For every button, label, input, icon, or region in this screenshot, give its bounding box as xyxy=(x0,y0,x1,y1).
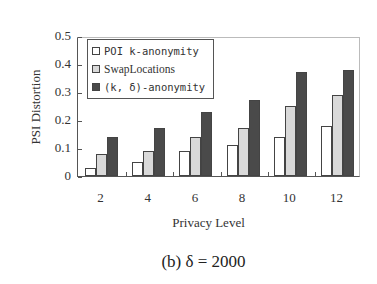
bar-poi-k-anonymity-4 xyxy=(132,162,143,176)
y-axis-label: PSI Distortion xyxy=(28,70,44,145)
x-axis-label: Privacy Level xyxy=(0,215,377,231)
bar-k-anonymity-6 xyxy=(201,112,212,176)
y-tick-mark xyxy=(78,177,82,178)
x-tick-mark xyxy=(221,172,222,176)
bar-poi-k-anonymity-6 xyxy=(179,151,190,176)
bar-poi-k-anonymity-2 xyxy=(85,168,96,176)
legend-label: SwapLocations xyxy=(104,63,175,75)
bar-swaplocations-10 xyxy=(285,106,296,176)
legend-item-swaplocations: SwapLocations xyxy=(92,63,175,75)
bar-swaplocations-6 xyxy=(190,137,201,176)
y-tick-mark xyxy=(78,121,82,122)
figure-caption: (b) δ = 2000 xyxy=(0,252,377,272)
x-tick-mark xyxy=(173,172,174,176)
y-tick-mark xyxy=(78,65,82,66)
bar-swaplocations-12 xyxy=(332,95,343,176)
y-tick-label: 0.5 xyxy=(41,28,71,44)
y-tick-label: 0.2 xyxy=(41,112,71,128)
y-tick-label: 0.4 xyxy=(41,56,71,72)
legend-item-poi-k-anonymity: POI k-anonymity xyxy=(92,45,199,57)
y-tick-label: 0.1 xyxy=(41,140,71,156)
y-tick-label: 0 xyxy=(41,168,71,184)
x-tick-label: 10 xyxy=(274,190,304,206)
bar-k-anonymity-4 xyxy=(154,128,165,176)
bar-swaplocations-2 xyxy=(96,154,107,176)
legend-label: (k, δ)-anonymity xyxy=(104,81,205,93)
bar-k-anonymity-10 xyxy=(296,72,307,176)
bar-swaplocations-8 xyxy=(238,128,249,176)
y-tick-mark xyxy=(78,149,82,150)
x-tick-mark xyxy=(126,172,127,176)
legend-label: POI k-anonymity xyxy=(104,45,199,57)
plot-area: POI k-anonymity SwapLocations (k, δ)-ano… xyxy=(77,37,360,177)
legend-swatch-white xyxy=(92,47,100,55)
legend-swatch-light-gray xyxy=(92,65,100,73)
x-tick-label: 12 xyxy=(322,190,352,206)
bar-k-anonymity-2 xyxy=(107,137,118,176)
x-tick-mark xyxy=(315,172,316,176)
legend-item-k-delta-anonymity: (k, δ)-anonymity xyxy=(92,81,205,93)
x-tick-label: 6 xyxy=(180,190,210,206)
y-tick-mark xyxy=(78,37,82,38)
bar-poi-k-anonymity-12 xyxy=(321,126,332,176)
legend-swatch-dark-gray xyxy=(92,83,100,91)
x-tick-label: 4 xyxy=(133,190,163,206)
bar-k-anonymity-12 xyxy=(343,70,354,176)
bar-swaplocations-4 xyxy=(143,151,154,176)
x-tick-mark xyxy=(268,172,269,176)
x-tick-label: 2 xyxy=(86,190,116,206)
y-tick-mark xyxy=(78,93,82,94)
y-tick-label: 0.3 xyxy=(41,84,71,100)
bar-poi-k-anonymity-8 xyxy=(227,145,238,176)
bar-k-anonymity-8 xyxy=(249,100,260,176)
x-tick-label: 8 xyxy=(227,190,257,206)
legend: POI k-anonymity SwapLocations (k, δ)-ano… xyxy=(87,39,214,99)
bar-poi-k-anonymity-10 xyxy=(274,137,285,176)
